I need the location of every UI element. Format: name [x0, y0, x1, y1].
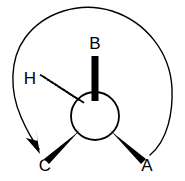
label-c: C [39, 156, 51, 175]
label-b: B [89, 34, 100, 53]
label-a: A [141, 156, 153, 175]
stereochemistry-figure: B H C A [0, 0, 185, 181]
label-h: H [24, 69, 36, 88]
chiral-center-diagram-canvas: B H C A [0, 0, 185, 181]
